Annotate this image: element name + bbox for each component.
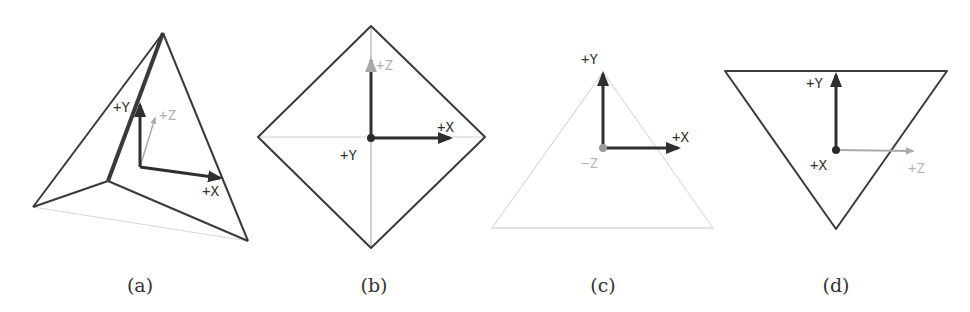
z-axis-label: +Z (376, 57, 393, 73)
y-axis-label: +Y (581, 51, 598, 67)
z-axis-label: +Z (908, 160, 925, 176)
panel-a: +Y +Z +X (33, 33, 248, 241)
y-axis-label: +Y (113, 99, 130, 115)
x-axis-label: +X (672, 129, 689, 145)
origin-dot (367, 134, 375, 142)
x-axis-label: +X (202, 183, 219, 199)
y-axis-label: +Y (340, 147, 357, 163)
y-axis-label: +Y (806, 75, 823, 91)
caption-a: (a) (127, 274, 153, 296)
x-axis-arrow (140, 167, 220, 178)
z-axis-arrow (140, 118, 155, 167)
hidden-edge (33, 207, 248, 241)
origin-dot (832, 146, 840, 154)
z-axis-arrow (836, 150, 913, 151)
figure-canvas: +Y +Z +X +Z +X +Y +Y +X −Z +Y +X +Z (a) … (0, 0, 970, 312)
x-axis-label: +X (437, 119, 454, 135)
z-axis-label: +Z (159, 107, 176, 123)
origin-dot (599, 144, 607, 152)
caption-d: (d) (823, 274, 850, 296)
panel-c: +Y +X −Z (492, 51, 713, 228)
panel-b: +Z +X +Y (258, 26, 485, 248)
x-axis-label: +X (810, 157, 827, 173)
caption-b: (b) (361, 274, 388, 296)
caption-c: (c) (590, 274, 615, 296)
panel-d: +Y +X +Z (725, 71, 947, 229)
z-axis-label: −Z (581, 155, 598, 171)
